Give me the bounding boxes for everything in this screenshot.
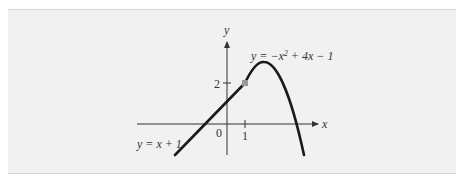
parabola-curve — [245, 62, 304, 155]
junction-point — [242, 80, 248, 86]
line-curve — [175, 83, 245, 155]
parabola-equation-label: y = −x2 + 4x − 1 — [250, 49, 333, 63]
y-tick-label-2: 2 — [214, 77, 220, 91]
origin-label: 0 — [216, 126, 222, 140]
piecewise-function-graph: y x 0 1 2 y = x + 1 y = −x2 + 4x − 1 — [0, 0, 465, 183]
line-equation-label: y = x + 1 — [136, 137, 182, 151]
y-axis-label: y — [223, 23, 230, 37]
x-tick-label-1: 1 — [242, 129, 248, 143]
x-axis-label: x — [321, 117, 328, 131]
